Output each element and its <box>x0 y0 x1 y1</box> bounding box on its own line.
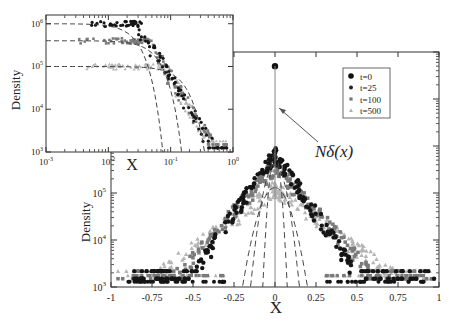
svg-text:X: X <box>270 298 282 317</box>
svg-text:100: 100 <box>227 156 239 167</box>
figure: -1-0.75-0.5-0.2500.250.50.751103104105XD… <box>0 0 454 331</box>
svg-text:-0.25: -0.25 <box>224 292 245 303</box>
delta-annotation: Nδ(x) <box>279 108 353 161</box>
svg-text:0.75: 0.75 <box>389 292 407 303</box>
legend-label: t=0 <box>360 72 373 82</box>
svg-text:-0.75: -0.75 <box>142 292 163 303</box>
svg-text:0.5: 0.5 <box>351 292 364 303</box>
svg-text:-1: -1 <box>107 292 115 303</box>
svg-text:Density: Density <box>78 201 93 242</box>
svg-text:105: 105 <box>93 186 107 199</box>
legend-label: t=25 <box>360 83 377 93</box>
svg-text:1: 1 <box>437 292 442 303</box>
svg-text:106: 106 <box>31 18 43 29</box>
chart-canvas: -1-0.75-0.5-0.2500.250.50.751103104105XD… <box>0 0 454 331</box>
svg-text:10-2: 10-2 <box>101 156 115 167</box>
svg-text:105: 105 <box>31 60 43 71</box>
svg-text:Density: Density <box>8 69 23 110</box>
svg-text:10-1: 10-1 <box>164 156 178 167</box>
svg-text:Nδ(x): Nδ(x) <box>314 142 353 161</box>
svg-text:0.25: 0.25 <box>307 292 325 303</box>
legend-label: t=500 <box>360 106 382 116</box>
svg-text:104: 104 <box>93 233 107 246</box>
svg-text:X: X <box>126 156 138 173</box>
legend: t=0t=25t=100t=500 <box>343 68 390 118</box>
svg-text:104: 104 <box>31 103 43 114</box>
svg-text:10-3: 10-3 <box>39 156 53 167</box>
svg-text:103: 103 <box>93 280 107 293</box>
legend-label: t=100 <box>360 95 382 105</box>
svg-text:-0.5: -0.5 <box>185 292 201 303</box>
svg-text:103: 103 <box>31 146 43 157</box>
